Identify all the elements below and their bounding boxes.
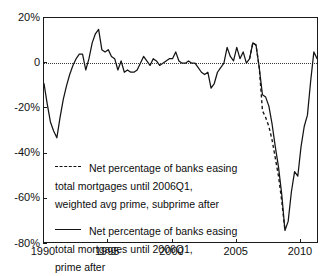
y-tick-label: -60% bbox=[0, 192, 44, 203]
legend-solid-line-icon bbox=[55, 229, 81, 232]
y-tick-label: 20% bbox=[0, 12, 44, 23]
legend-dashed-line-icon bbox=[55, 166, 81, 169]
chart-figure: 20%0-20%-40%-60%-80% 1990199520002005201… bbox=[0, 0, 332, 276]
legend-entry: Net percentage of banks easing total mor… bbox=[55, 221, 270, 275]
y-tick-mark bbox=[43, 243, 47, 244]
chart-legend: Net percentage of banks easing total mor… bbox=[55, 158, 270, 276]
y-tick-label: -40% bbox=[0, 147, 44, 158]
x-tick-label: 2010 bbox=[278, 246, 322, 257]
legend-entry: Net percentage of banks easing total mor… bbox=[55, 158, 270, 212]
legend-label: Net percentage of banks easing total mor… bbox=[55, 225, 237, 273]
legend-label: Net percentage of banks easing total mor… bbox=[55, 162, 237, 210]
y-tick-label: 0 bbox=[0, 57, 44, 68]
y-tick-label: -20% bbox=[0, 102, 44, 113]
